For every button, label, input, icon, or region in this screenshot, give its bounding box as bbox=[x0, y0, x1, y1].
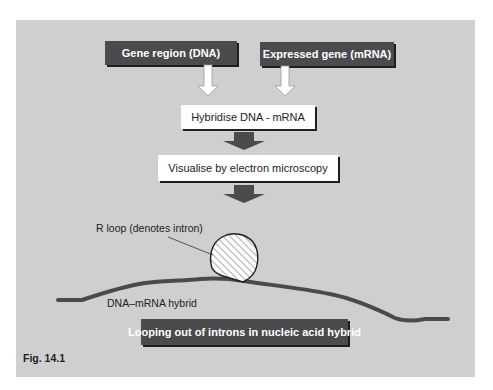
hollow-arrow-down-icon bbox=[198, 65, 218, 96]
dark-arrow-down-icon bbox=[223, 185, 265, 203]
r-loop-pointer-line bbox=[168, 237, 213, 255]
result-box: Looping out of introns in nucleic acid h… bbox=[141, 319, 348, 345]
figure-caption: Fig. 14.1 bbox=[23, 352, 65, 364]
dark-arrow-down-icon bbox=[223, 132, 265, 150]
hollow-arrow-down-icon bbox=[275, 66, 295, 96]
step-visualise-box: Visualise by electron microscopy bbox=[158, 155, 338, 181]
hybrid-label: DNA–mRNA hybrid bbox=[107, 297, 197, 309]
r-loop-label: R loop (denotes intron) bbox=[96, 222, 203, 234]
r-loop-shape bbox=[211, 234, 258, 282]
step-hybridise-box: Hybridise DNA - mRNA bbox=[181, 105, 315, 129]
